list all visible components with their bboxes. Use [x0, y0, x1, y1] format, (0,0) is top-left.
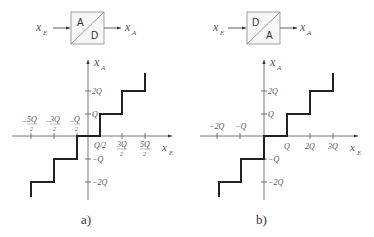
x-tick-label-3q2: 3Q 2 — [116, 140, 127, 157]
x-tick-label-neg-3q2: − 3Q 2 — [45, 115, 60, 132]
output-label: x — [124, 20, 131, 34]
x-axis-label: x — [161, 141, 167, 153]
svg-text:3Q: 3Q — [49, 115, 60, 124]
diagram-b: x E D A x A x A x E −2Q −Q Q 2Q 3Q — [200, 12, 362, 227]
x-tick-label-neg-5q2: − 5Q 2 — [22, 115, 37, 132]
svg-text:2: 2 — [53, 126, 56, 132]
y-tick-label-neg-2q: −2Q — [92, 178, 107, 187]
x-tick-label-5q2: 5Q 2 — [140, 140, 150, 157]
x-tick-label-q2: Q/2 — [94, 141, 106, 150]
converter-top-label: A — [77, 17, 84, 28]
converter-bottom-label: D — [91, 30, 98, 41]
output-sub: A — [131, 29, 137, 37]
svg-text:2: 2 — [75, 126, 78, 132]
output-sub: A — [306, 29, 312, 37]
svg-text:2: 2 — [143, 151, 146, 157]
y-tick-label-2q: 2Q — [92, 87, 102, 96]
x-tick-label-q: Q — [284, 142, 290, 151]
da-converter-block: x E D A x A — [212, 12, 312, 44]
svg-text:2: 2 — [30, 126, 33, 132]
y-tick-label-q: Q — [268, 110, 274, 119]
diagram-a: x E A D x A x A x E − 5Q — [12, 12, 174, 227]
svg-text:3Q: 3Q — [116, 140, 127, 149]
converter-top-label: D — [252, 17, 259, 28]
caption-a: a) — [81, 212, 91, 227]
x-axis-sub: E — [356, 149, 362, 157]
svg-text:2: 2 — [120, 151, 123, 157]
svg-text:Q: Q — [74, 115, 80, 124]
input-sub: E — [219, 29, 225, 37]
x-axis-label: x — [349, 141, 355, 153]
y-tick-label-neg-q: −Q — [92, 155, 103, 164]
output-label: x — [299, 20, 306, 34]
x-tick-label-2q: 2Q — [305, 142, 315, 151]
input-label: x — [212, 20, 219, 34]
y-axis-label: x — [269, 55, 276, 69]
y-tick-label-2q: 2Q — [268, 87, 278, 96]
x-axis-sub: E — [168, 149, 174, 157]
y-axis-sub: A — [276, 64, 282, 72]
x-tick-label-neg-q2: − Q 2 — [69, 115, 80, 132]
input-sub: E — [42, 29, 48, 37]
y-tick-label-q: Q — [92, 110, 98, 119]
x-tick-label-neg-2q: −2Q — [209, 122, 224, 131]
x-tick-label-neg-q: −Q — [235, 122, 246, 131]
y-axis-sub: A — [100, 64, 106, 72]
svg-text:5Q: 5Q — [140, 140, 150, 149]
y-tick-label-neg-q: −Q — [268, 155, 279, 164]
converter-bottom-label: A — [266, 30, 273, 41]
ad-converter-block: x E A D x A — [35, 12, 137, 44]
figure: x E A D x A x A x E − 5Q — [0, 0, 374, 237]
input-label: x — [35, 20, 42, 34]
y-tick-label-neg-2q: −2Q — [268, 178, 283, 187]
y-axis-label: x — [93, 55, 100, 69]
x-tick-label-3q: 3Q — [327, 142, 338, 151]
svg-text:5Q: 5Q — [27, 115, 37, 124]
caption-b: b) — [256, 212, 267, 227]
